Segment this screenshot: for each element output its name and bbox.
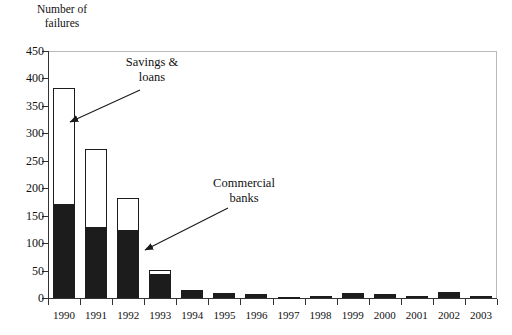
x-tick <box>433 299 434 305</box>
y-tick-label-wrap: 100 <box>0 237 44 249</box>
bar-segment-commercial-banks <box>406 296 428 298</box>
x-tick <box>273 299 274 305</box>
x-tick-label: 1995 <box>213 309 235 322</box>
y-tick-label-wrap: 400 <box>0 72 44 84</box>
x-tick <box>369 299 370 305</box>
x-tick-label: 1991 <box>85 309 107 322</box>
bar-segment-commercial-banks <box>53 205 75 298</box>
x-tick-label: 2002 <box>438 309 460 322</box>
annotation-commercial-banks: Commercial banks <box>190 176 298 206</box>
x-tick-label: 1999 <box>342 309 364 322</box>
y-tick-label-wrap: 150 <box>0 210 44 222</box>
x-tick <box>401 299 402 305</box>
y-tick-label: 0 <box>4 292 44 304</box>
y-tick-label: 300 <box>4 127 44 139</box>
bar-segment-commercial-banks <box>278 297 300 299</box>
x-tick <box>305 299 306 305</box>
bar-segment-savings-loans <box>181 290 203 292</box>
y-tick-label: 400 <box>4 72 44 84</box>
bar-segment-commercial-banks <box>470 296 492 298</box>
bar-segment-savings-loans <box>245 294 267 296</box>
y-tick-label: 50 <box>4 265 44 277</box>
x-tick <box>465 299 466 305</box>
y-tick-label: 150 <box>4 210 44 222</box>
y-tick-label: 250 <box>4 155 44 167</box>
y-tick-label-wrap: 0 <box>0 292 44 304</box>
y-tick-label-wrap: 450 <box>0 45 44 57</box>
y-axis-title: Number of failures <box>16 2 108 30</box>
bank-failures-chart: Number of failures 050100150200250300350… <box>0 0 512 335</box>
x-tick <box>144 299 145 305</box>
x-tick <box>337 299 338 305</box>
bar-segment-savings-loans <box>117 198 139 231</box>
x-tick-label: 1993 <box>149 309 171 322</box>
y-tick-label: 200 <box>4 182 44 194</box>
bar-segment-savings-loans <box>149 270 171 275</box>
y-axis-line <box>48 51 49 299</box>
x-tick-label: 1997 <box>278 309 300 322</box>
plot-area-frame <box>48 51 497 298</box>
bar-segment-commercial-banks <box>117 231 139 298</box>
x-tick-label: 2000 <box>374 309 396 322</box>
x-tick <box>80 299 81 305</box>
x-tick-label: 1994 <box>181 309 203 322</box>
y-tick-label-wrap: 300 <box>0 127 44 139</box>
bar-segment-commercial-banks <box>149 275 171 298</box>
bar-segment-commercial-banks <box>310 296 332 298</box>
y-tick-label-wrap: 250 <box>0 155 44 167</box>
bar-segment-savings-loans <box>342 293 364 295</box>
y-tick-label-wrap: 50 <box>0 265 44 277</box>
x-tick-label: 2003 <box>470 309 492 322</box>
x-tick <box>240 299 241 305</box>
x-tick-label: 2001 <box>406 309 428 322</box>
x-tick <box>112 299 113 305</box>
x-tick-label: 1996 <box>245 309 267 322</box>
x-tick <box>208 299 209 305</box>
x-tick <box>48 299 49 305</box>
bar-segment-commercial-banks <box>85 228 107 298</box>
x-tick-label: 1998 <box>310 309 332 322</box>
y-tick-label: 350 <box>4 100 44 112</box>
x-tick <box>497 299 498 305</box>
bar-segment-commercial-banks <box>181 291 203 298</box>
bar-segment-commercial-banks <box>438 292 460 298</box>
x-tick-label: 1992 <box>117 309 139 322</box>
bar-segment-savings-loans <box>85 149 107 228</box>
bar-segment-savings-loans <box>374 294 396 296</box>
y-tick-label: 100 <box>4 237 44 249</box>
x-tick-label: 1990 <box>53 309 75 322</box>
annotation-savings-loans: Savings & loans <box>104 55 200 85</box>
bar-segment-savings-loans <box>53 88 75 205</box>
bar-segment-savings-loans <box>213 293 235 295</box>
y-tick-label-wrap: 350 <box>0 100 44 112</box>
y-tick-label: 450 <box>4 45 44 57</box>
y-tick-label-wrap: 200 <box>0 182 44 194</box>
x-tick <box>176 299 177 305</box>
